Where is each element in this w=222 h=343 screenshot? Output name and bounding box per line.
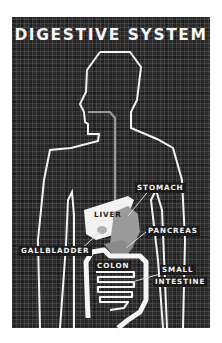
label-liver: LIVER	[92, 210, 124, 220]
arm-inner-right	[151, 190, 167, 328]
label-colon: COLON	[95, 261, 131, 271]
esophagus	[88, 112, 125, 212]
label-small: SMALL	[160, 265, 196, 275]
label-pancreas: PANCREAS	[146, 226, 200, 236]
label-stomach: STOMACH	[135, 183, 186, 193]
label-gallbladder: GALLBLADDER	[19, 246, 92, 256]
body-illustration	[0, 0, 222, 343]
label-intestine: INTESTINE	[153, 277, 207, 287]
arm-inner-left	[60, 192, 74, 328]
small-intestine	[96, 272, 134, 310]
